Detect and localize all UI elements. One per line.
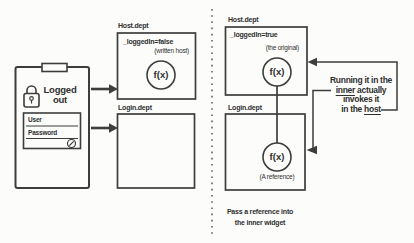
device-to-login-arrow (91, 123, 118, 132)
bottom-caption: Pass a reference into the inner widget (214, 206, 306, 228)
host-panel-right-title: Host.dept (228, 16, 258, 23)
fn-label-host-right: f(x) (270, 66, 285, 77)
diagram-canvas: f(x) f(x) f(x) (0, 0, 414, 243)
device-notch (42, 64, 67, 72)
login-panel-left-frame (118, 114, 195, 188)
fn-label-host-left: f(x) (154, 69, 169, 80)
host-right-state: _loggedIn=true (230, 31, 278, 38)
arrowhead-into-host (308, 58, 318, 66)
login-panel-left-title: Login.dept (118, 104, 152, 111)
password-field-label: Password (28, 130, 57, 137)
caption-line2: the inner widget (214, 217, 306, 228)
device-to-host-arrow (91, 84, 118, 93)
status-line2: out (43, 95, 77, 105)
submit-circle-icon (68, 140, 76, 148)
device-mockup (16, 64, 90, 189)
user-field-label: User (28, 117, 42, 124)
login-panel-right-title: Login.dept (228, 104, 262, 111)
fn-label-login-right: f(x) (270, 151, 285, 162)
callout-inner-word: inner (336, 85, 355, 95)
padlock-icon (24, 86, 39, 107)
host-left-state: _loggedIn=false (123, 38, 173, 45)
diagram-page: f(x) f(x) f(x) Logged out User Password … (0, 0, 414, 243)
callout-host-word: host (364, 104, 381, 114)
callout-line4: in the host (316, 105, 406, 115)
login-right-note: (A reference) (242, 174, 312, 181)
host-panel-left-title: Host.dept (118, 22, 148, 29)
host-left-note: (written host) (118, 48, 189, 55)
callout-text: Running it in the inner actually invokes… (316, 76, 406, 114)
arrowhead-into-login (307, 146, 318, 154)
host-right-note: (the original) (228, 45, 299, 52)
device-status-text: Logged out (43, 85, 77, 105)
caption-line1: Pass a reference into (214, 206, 306, 217)
